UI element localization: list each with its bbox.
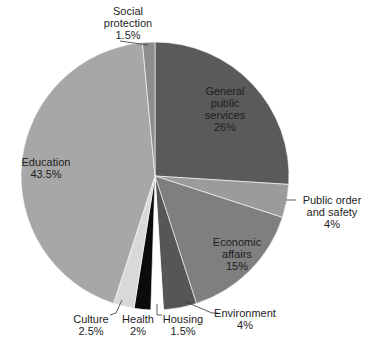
label-value: 2.5% — [68, 325, 114, 337]
label-value: 26% — [193, 121, 257, 133]
label-text: and safety — [294, 206, 370, 218]
label-text: Economic — [205, 236, 269, 248]
label-health: Health 2% — [117, 313, 159, 337]
label-text: General — [193, 85, 257, 97]
label-environment: Environment 4% — [212, 307, 278, 331]
label-general-public-services: General public services 26% — [193, 85, 257, 133]
label-text: affairs — [205, 248, 269, 260]
label-text: Housing — [158, 313, 208, 325]
label-text: protection — [96, 17, 160, 29]
label-text: public — [193, 97, 257, 109]
label-culture: Culture 2.5% — [68, 313, 114, 337]
label-value: 4% — [294, 218, 370, 230]
label-value: 4% — [212, 319, 278, 331]
label-value: 1.5% — [96, 29, 160, 41]
label-value: 2% — [117, 325, 159, 337]
label-education: Education 43.5% — [14, 156, 78, 180]
label-value: 1.5% — [158, 325, 208, 337]
label-text: Public order — [294, 194, 370, 206]
label-text: Culture — [68, 313, 114, 325]
label-text: services — [193, 109, 257, 121]
label-value: 15% — [205, 260, 269, 272]
label-public-order-and-safety: Public order and safety 4% — [294, 194, 370, 230]
label-value: 43.5% — [14, 168, 78, 180]
label-text: Social — [96, 5, 160, 17]
label-text: Environment — [212, 307, 278, 319]
label-housing: Housing 1.5% — [158, 313, 208, 337]
label-social-protection: Social protection 1.5% — [96, 5, 160, 41]
label-text: Education — [14, 156, 78, 168]
label-text: Health — [117, 313, 159, 325]
label-economic-affairs: Economic affairs 15% — [205, 236, 269, 272]
